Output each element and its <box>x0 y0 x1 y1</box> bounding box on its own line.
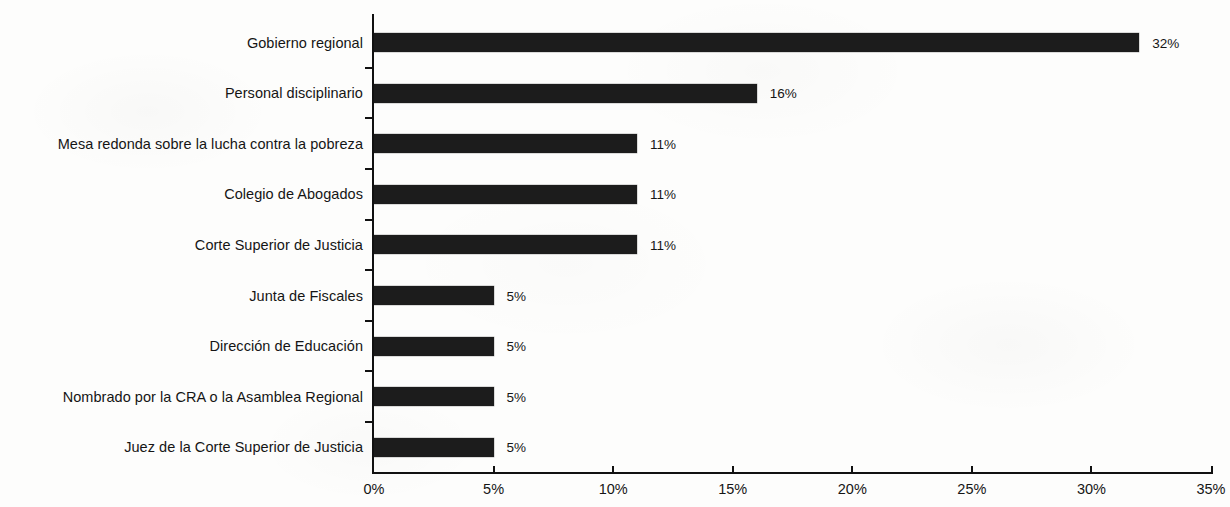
bar <box>374 84 757 103</box>
category-label: Dirección de Educación <box>210 338 363 354</box>
category-label: Gobierno regional <box>247 35 363 51</box>
y-axis-tick <box>365 320 373 322</box>
bar <box>374 438 494 457</box>
bar-chart-figure: Gobierno regional32%Personal disciplinar… <box>0 0 1230 507</box>
x-axis-tick-label: 5% <box>483 481 504 497</box>
bar-row: Gobierno regional32% <box>0 33 1230 52</box>
x-axis-tick-label: 30% <box>1077 481 1106 497</box>
x-axis-tick-label: 35% <box>1196 481 1225 497</box>
bar-row: Junta de Fiscales5% <box>0 286 1230 305</box>
bar-row: Mesa redonda sobre la lucha contra la po… <box>0 134 1230 153</box>
y-axis-tick <box>365 370 373 372</box>
category-label: Junta de Fiscales <box>249 288 363 304</box>
x-axis-tick <box>1090 466 1092 473</box>
y-axis-tick <box>365 219 373 221</box>
y-axis-tick <box>365 67 373 69</box>
bar-value-label: 5% <box>507 389 527 404</box>
x-axis-left-cap <box>372 466 374 473</box>
y-axis-line <box>372 14 374 474</box>
bar <box>374 387 494 406</box>
bar-value-label: 5% <box>507 288 527 303</box>
bar <box>374 235 637 254</box>
x-axis-tick-label: 25% <box>957 481 986 497</box>
category-label: Mesa redonda sobre la lucha contra la po… <box>58 136 363 152</box>
y-axis-tick <box>365 421 373 423</box>
x-axis-tick <box>971 466 973 473</box>
bar-value-label: 16% <box>770 86 797 101</box>
bar-value-label: 11% <box>650 237 676 252</box>
x-axis-tick-label: 10% <box>599 481 628 497</box>
y-axis-tick <box>365 117 373 119</box>
category-label: Juez de la Corte Superior de Justicia <box>124 439 363 455</box>
category-label: Personal disciplinario <box>225 85 363 101</box>
bar-row: Personal disciplinario16% <box>0 84 1230 103</box>
bar-row: Juez de la Corte Superior de Justicia5% <box>0 438 1230 457</box>
x-axis-tick <box>612 466 614 473</box>
bar <box>374 286 494 305</box>
x-axis-tick <box>732 466 734 473</box>
x-axis-tick <box>493 466 495 473</box>
x-axis-line <box>372 472 1213 474</box>
bar <box>374 134 637 153</box>
bar-value-label: 11% <box>650 136 676 151</box>
bar-row: Nombrado por la CRA o la Asamblea Region… <box>0 387 1230 406</box>
bar-row: Colegio de Abogados11% <box>0 185 1230 204</box>
bar <box>374 185 637 204</box>
category-label: Colegio de Abogados <box>224 186 363 202</box>
y-axis-tick <box>365 269 373 271</box>
x-axis-right-cap <box>1211 466 1213 473</box>
bar-value-label: 11% <box>650 187 676 202</box>
category-label: Corte Superior de Justicia <box>195 237 363 253</box>
bar <box>374 337 494 356</box>
category-label: Nombrado por la CRA o la Asamblea Region… <box>63 389 363 405</box>
bar-row: Dirección de Educación5% <box>0 337 1230 356</box>
bar-value-label: 5% <box>507 339 527 354</box>
y-axis-tick <box>365 168 373 170</box>
x-axis-tick <box>851 466 853 473</box>
x-axis-tick-label: 0% <box>364 481 385 497</box>
bar-value-label: 32% <box>1152 35 1179 50</box>
bar <box>374 33 1139 52</box>
x-axis-tick-label: 20% <box>838 481 867 497</box>
x-axis-tick-label: 15% <box>718 481 747 497</box>
bar-value-label: 5% <box>507 440 527 455</box>
bar-row: Corte Superior de Justicia11% <box>0 235 1230 254</box>
